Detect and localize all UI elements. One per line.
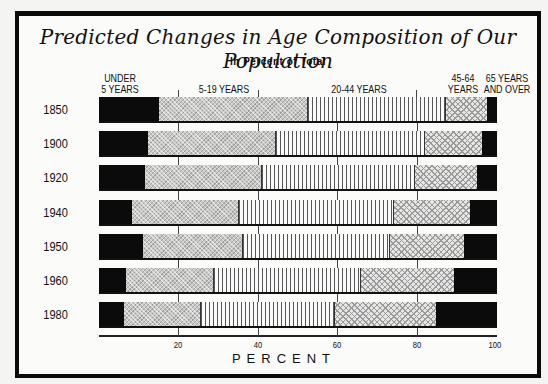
gridline-tick bbox=[178, 260, 179, 268]
x-axis bbox=[99, 335, 497, 337]
gridline-tick bbox=[178, 157, 179, 165]
segment-5-19-years bbox=[143, 234, 244, 258]
segment-45-64-years bbox=[415, 165, 477, 189]
segment-65-years-and-over bbox=[477, 165, 497, 189]
gridline-tick bbox=[258, 226, 259, 234]
x-tick-label-80: 80 bbox=[413, 340, 422, 350]
row-label-1950: 1950 bbox=[43, 239, 69, 254]
segment-45-64-years bbox=[446, 97, 487, 121]
segment-65-years-and-over bbox=[464, 234, 497, 258]
x-tick-label-60: 60 bbox=[333, 340, 342, 350]
segment-45-64-years bbox=[390, 234, 464, 258]
gridline-tick bbox=[258, 260, 259, 268]
x-tick-40 bbox=[258, 328, 259, 336]
segment-20-44-years bbox=[214, 268, 362, 292]
legend-under-5-line2: 5 YEARS bbox=[99, 84, 142, 95]
bar-1920 bbox=[99, 165, 497, 191]
legend-5-19: 5-19 YEARS bbox=[190, 84, 258, 95]
gridline-tick bbox=[258, 123, 259, 131]
x-tick-80 bbox=[417, 328, 418, 336]
row-label-1900: 1900 bbox=[43, 136, 69, 151]
gridline-tick bbox=[178, 123, 179, 131]
row-label-1920: 1920 bbox=[43, 170, 69, 185]
segment-45-64-years bbox=[425, 131, 482, 155]
x-tick-20 bbox=[178, 328, 179, 336]
segment-under-5-years bbox=[99, 268, 126, 292]
gridline-tick bbox=[258, 294, 259, 302]
segment-20-44-years bbox=[239, 200, 395, 224]
segment-5-19-years bbox=[148, 131, 277, 155]
gridline-tick bbox=[178, 226, 179, 234]
gridline-tick bbox=[337, 123, 338, 131]
segment-65-years-and-over bbox=[436, 302, 497, 326]
row-label-1850: 1850 bbox=[43, 102, 69, 117]
segment-45-64-years bbox=[335, 302, 436, 326]
gridline-tick bbox=[178, 294, 179, 302]
gridline-tick bbox=[417, 191, 418, 200]
segment-under-5-years bbox=[99, 302, 124, 326]
segment-5-19-years bbox=[126, 268, 214, 292]
segment-20-44-years bbox=[276, 131, 425, 155]
x-tick-label-40: 40 bbox=[254, 340, 263, 350]
bar-1850 bbox=[99, 97, 497, 123]
bar-1940 bbox=[99, 200, 497, 226]
gridline-tick bbox=[337, 226, 338, 234]
gridline-tick bbox=[417, 157, 418, 165]
segment-under-5-years bbox=[99, 131, 148, 155]
x-tick-label-100: 100 bbox=[489, 340, 502, 350]
x-axis-label: PERCENT bbox=[19, 351, 537, 366]
gridline-tick bbox=[337, 191, 338, 200]
segment-20-44-years bbox=[243, 234, 390, 258]
x-tick-60 bbox=[337, 328, 338, 336]
gridline-tick bbox=[337, 294, 338, 302]
gridline-tick bbox=[417, 226, 418, 234]
legend-65-over-line2: AND OVER bbox=[482, 84, 533, 95]
bar-1960 bbox=[99, 268, 497, 294]
gridline-tick bbox=[178, 191, 179, 200]
chart-subtitle: In Percent of Total bbox=[19, 56, 537, 67]
gridline-tick bbox=[337, 157, 338, 165]
gridline-tick bbox=[417, 260, 418, 268]
segment-20-44-years bbox=[201, 302, 336, 326]
gridline-tick bbox=[417, 294, 418, 302]
segment-under-5-years bbox=[99, 97, 159, 121]
segment-5-19-years bbox=[145, 165, 262, 189]
legend-45-64: 45-64 YEARS bbox=[446, 73, 480, 95]
segment-45-64-years bbox=[394, 200, 470, 224]
gridline-tick bbox=[417, 123, 418, 131]
row-label-1940: 1940 bbox=[43, 205, 69, 220]
segment-5-19-years bbox=[124, 302, 201, 326]
segment-65-years-and-over bbox=[454, 268, 497, 292]
segment-5-19-years bbox=[132, 200, 239, 224]
gridline-tick bbox=[258, 157, 259, 165]
segment-65-years-and-over bbox=[470, 200, 497, 224]
row-label-1960: 1960 bbox=[43, 273, 69, 288]
segment-under-5-years bbox=[99, 200, 132, 224]
segment-65-years-and-over bbox=[487, 97, 497, 121]
gridline-tick bbox=[258, 191, 259, 200]
segment-45-64-years bbox=[361, 268, 454, 292]
legend-20-44: 20-44 YEARS bbox=[325, 84, 393, 95]
bar-1980 bbox=[99, 302, 497, 328]
legend-under-5: UNDER 5 YEARS bbox=[99, 73, 142, 95]
chart-frame: Predicted Changes in Age Composition of … bbox=[15, 11, 541, 378]
gridline-tick bbox=[337, 260, 338, 268]
segment-20-44-years bbox=[308, 97, 447, 121]
legend-45-64-line2: YEARS bbox=[446, 84, 480, 95]
bar-1900 bbox=[99, 131, 497, 157]
segment-65-years-and-over bbox=[482, 131, 497, 155]
bar-1950 bbox=[99, 234, 497, 260]
segment-5-19-years bbox=[159, 97, 308, 121]
segment-under-5-years bbox=[99, 165, 145, 189]
legend-65-over: 65 YEARS AND OVER bbox=[482, 73, 533, 95]
segment-20-44-years bbox=[262, 165, 415, 189]
x-tick-label-20: 20 bbox=[174, 340, 183, 350]
row-label-1980: 1980 bbox=[43, 307, 69, 322]
segment-under-5-years bbox=[99, 234, 143, 258]
